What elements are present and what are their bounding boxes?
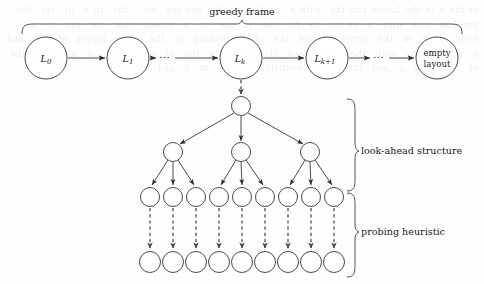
- node-empty-layout-label-line2: layout: [424, 59, 451, 69]
- tree-node-n4-3[interactable]: [186, 252, 207, 273]
- node-empty-layout-label-line1: empty: [423, 48, 450, 58]
- edge-n2-2-to-n3-4: [221, 160, 236, 185]
- node-Lk[interactable]: Lk: [220, 37, 262, 79]
- chain-ellipsis-2: ⋯: [373, 52, 385, 65]
- look-ahead-structure-label: look-ahead structure: [361, 145, 463, 156]
- tree-node-n3-4[interactable]: [210, 188, 229, 207]
- tree-root-node[interactable]: [232, 97, 251, 116]
- tree-node-n2-2[interactable]: [232, 143, 251, 162]
- tree-level4-nodes: [140, 252, 345, 273]
- tree-node-n2-1[interactable]: [164, 143, 183, 162]
- figure-canvas: of the a in the layout and the with a on…: [0, 0, 484, 284]
- tree-node-n3-3[interactable]: [187, 188, 206, 207]
- probing-heuristic-brace-path: [347, 193, 359, 277]
- tree-level2-nodes: [164, 143, 320, 162]
- tree-node-n4-1[interactable]: [140, 252, 161, 273]
- tree-node-n3-1[interactable]: [141, 188, 160, 207]
- edge-n2-2-to-n3-6: [246, 160, 263, 185]
- brace-look-ahead-structure: look-ahead structure: [347, 99, 463, 191]
- probing-heuristic-label: probing heuristic: [361, 226, 445, 237]
- tree-node-n4-5[interactable]: [232, 252, 253, 273]
- tree-node-n4-7[interactable]: [278, 252, 299, 273]
- edge-n2-2-to-n3-5: [241, 162, 242, 185]
- tree-node-n3-7[interactable]: [279, 188, 298, 207]
- tree-node-n4-8[interactable]: [301, 252, 322, 273]
- edge-n2-1-to-n3-3: [178, 160, 194, 185]
- tree-root-circle[interactable]: [232, 97, 251, 116]
- node-empty-layout[interactable]: empty layout: [416, 37, 458, 79]
- edge-root-to-n2-1: [180, 113, 234, 144]
- tree-node-n4-9[interactable]: [324, 252, 345, 273]
- tree-node-n4-4[interactable]: [209, 252, 230, 273]
- diagram-svg: greedy frame: [0, 0, 484, 284]
- greedy-frame-brace-path: [22, 20, 462, 34]
- brace-greedy-frame: greedy frame: [22, 6, 462, 34]
- probing-dashed-arrows: [150, 208, 334, 248]
- greedy-frame-label: greedy frame: [209, 6, 275, 17]
- edge-n2-3-to-n3-9: [315, 160, 332, 185]
- tree-node-n4-6[interactable]: [255, 252, 276, 273]
- brace-probing-heuristic: probing heuristic: [347, 193, 445, 277]
- node-Lk1[interactable]: Lk+1: [306, 37, 348, 79]
- tree-edges-level2-to-level3: [152, 160, 332, 185]
- node-L0[interactable]: L0: [25, 37, 67, 79]
- tree-level3-nodes: [141, 188, 344, 207]
- node-L1[interactable]: L1: [107, 37, 149, 79]
- tree-node-n3-8[interactable]: [302, 188, 321, 207]
- edge-n2-1-to-n3-1: [152, 160, 168, 185]
- look-ahead-brace-path: [347, 99, 359, 191]
- edge-n2-3-to-n3-7: [290, 160, 305, 185]
- edge-root-to-n2-3: [248, 113, 303, 144]
- tree-node-n2-3[interactable]: [301, 143, 320, 162]
- chain-ellipsis-1: ⋯: [159, 52, 171, 65]
- tree-edges-root-to-level2: [180, 113, 303, 144]
- tree-node-n3-9[interactable]: [325, 188, 344, 207]
- edge-n2-3-to-n3-8: [310, 162, 311, 185]
- tree-node-n3-2[interactable]: [164, 188, 183, 207]
- tree-node-n3-6[interactable]: [256, 188, 275, 207]
- tree-node-n4-2[interactable]: [163, 252, 184, 273]
- tree-node-n3-5[interactable]: [233, 188, 252, 207]
